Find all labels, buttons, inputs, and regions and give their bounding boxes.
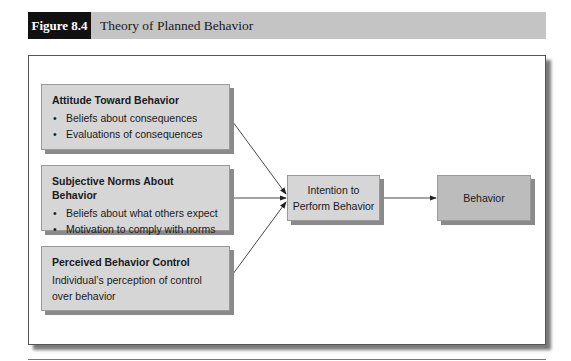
behavior-box: Behavior	[437, 175, 531, 221]
perceived-control-description: Individual’s perception of control over …	[52, 272, 219, 304]
subjective-norms-bullet: Motivation to comply with norms	[66, 221, 219, 237]
attitude-box: Attitude Toward Behavior Beliefs about c…	[41, 84, 230, 150]
attitude-bullet: Beliefs about consequences	[66, 110, 219, 126]
intention-line: Perform Behavior	[293, 198, 375, 214]
subjective-norms-box: Subjective Norms About Behavior Beliefs …	[41, 165, 230, 231]
arrow-control-to-intention	[230, 202, 286, 278]
attitude-bullets: Beliefs about consequences Evaluations o…	[52, 110, 219, 142]
description-line: over behavior	[52, 288, 219, 304]
intention-box: Intention to Perform Behavior	[287, 175, 380, 221]
intention-line: Intention to	[293, 182, 375, 198]
attitude-title: Attitude Toward Behavior	[52, 93, 219, 107]
perceived-control-title: Perceived Behavior Control	[52, 255, 219, 269]
description-line: Individual’s perception of control	[52, 272, 219, 288]
bottom-divider	[28, 359, 546, 360]
arrow-attitude-to-intention	[230, 118, 286, 194]
perceived-control-box: Perceived Behavior Control Individual’s …	[41, 246, 230, 311]
subjective-norms-title: Subjective Norms About Behavior	[52, 174, 219, 202]
behavior-label: Behavior	[463, 190, 504, 206]
subjective-norms-bullets: Beliefs about what others expect Motivat…	[52, 205, 219, 237]
subjective-norms-bullet: Beliefs about what others expect	[66, 205, 219, 221]
attitude-bullet: Evaluations of consequences	[66, 126, 219, 142]
